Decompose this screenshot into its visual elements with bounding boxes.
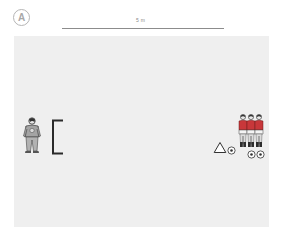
scale-bar <box>62 28 224 29</box>
ball-icon <box>247 150 256 159</box>
field-player-icon <box>239 114 247 147</box>
goalkeeper-icon <box>21 116 43 156</box>
field-player-icon <box>255 114 263 147</box>
field-player-icon <box>247 114 255 147</box>
ball-icon <box>256 150 265 159</box>
scale-label: 5 m <box>136 17 145 23</box>
ball-icon <box>227 146 236 155</box>
cone-icon <box>213 141 227 154</box>
field-players-group-icon <box>237 113 267 153</box>
goal-icon <box>51 119 65 155</box>
drill-variant-badge: A <box>13 9 30 26</box>
